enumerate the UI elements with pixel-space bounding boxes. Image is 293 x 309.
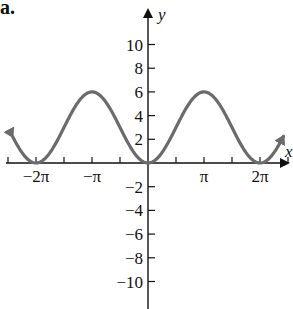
y-tick-label: −6 [125, 225, 143, 244]
y-tick-label: 2 [135, 130, 144, 149]
x-tick-labels: −2π−ππ2π [23, 167, 269, 186]
y-axis-label: y [156, 5, 166, 24]
x-axis-label: x [284, 142, 293, 161]
x-tick-label: −2π [23, 167, 50, 186]
y-tick-label: 4 [135, 107, 144, 126]
y-tick-label: −4 [125, 201, 144, 220]
y-tick-label: −8 [125, 249, 143, 268]
y-tick-label: −10 [116, 273, 143, 292]
x-tick-label: 2π [251, 167, 269, 186]
x-tick-label: −π [83, 167, 102, 186]
x-tick-label: π [200, 167, 209, 186]
y-tick-label: 8 [135, 59, 144, 78]
y-tick-label: −2 [125, 178, 143, 197]
y-tick-label: 10 [126, 36, 143, 55]
chart: −2π−ππ2π 108642−2−4−6−8−10 y x [0, 0, 293, 309]
y-tick-label: 6 [135, 83, 144, 102]
